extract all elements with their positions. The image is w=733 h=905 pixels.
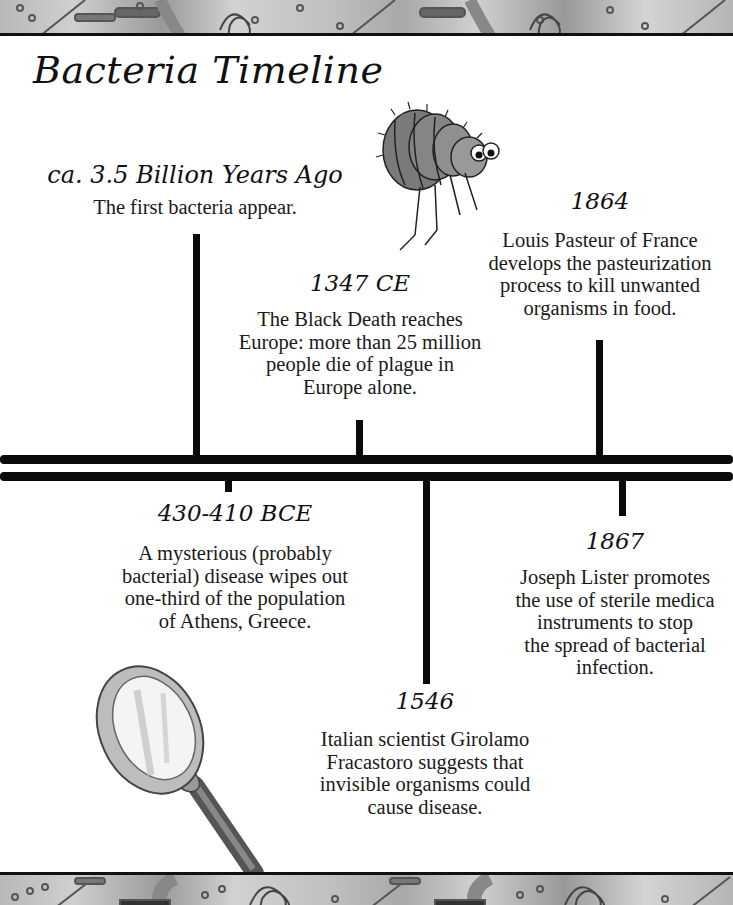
event-description: The Black Death reaches Europe: more tha… (210, 308, 510, 398)
event-date: 1867 (485, 526, 733, 556)
timeline-event-1867: 1867 Joseph Lister promotes the use of s… (485, 526, 733, 679)
timeline-tick-1546 (423, 480, 430, 684)
magnifying-glass-icon (75, 655, 265, 875)
event-description: Joseph Lister promotes the use of steril… (485, 566, 733, 679)
event-date: 430-410 BCE (90, 498, 380, 528)
timeline-event-3-5-billion-years-ago: ca. 3.5 Billion Years Ago The first bact… (20, 160, 370, 219)
magnifying-glass-illustration (75, 655, 265, 875)
timeline-tick-1867 (619, 480, 626, 516)
event-description: Louis Pasteur of France develops the pas… (465, 229, 733, 319)
timeline-tick-3-5-billion (193, 234, 200, 456)
timeline-event-1546: 1546 Italian scientist Girolamo Fracasto… (290, 686, 560, 818)
event-description: Italian scientist Girolamo Fracastoro su… (290, 728, 560, 818)
event-date: 1864 (465, 186, 733, 216)
timeline-tick-1864 (596, 340, 603, 456)
bacteria-pattern-icon (0, 875, 733, 905)
timeline-event-430-410-bce: 430-410 BCE A mysterious (probably bacte… (90, 498, 380, 632)
bacteria-pattern-icon (0, 0, 733, 36)
page-title: Bacteria Timeline (33, 48, 383, 92)
timeline-axis-upper (0, 455, 733, 464)
event-date: 1546 (290, 686, 560, 716)
event-description: The first bacteria appear. (20, 196, 370, 219)
timeline-tick-430-410-bce (225, 480, 232, 492)
event-description: A mysterious (probably bacterial) diseas… (90, 542, 380, 632)
bottom-border-band (0, 872, 733, 905)
event-date: ca. 3.5 Billion Years Ago (20, 160, 370, 190)
timeline-event-1864: 1864 Louis Pasteur of France develops th… (465, 186, 733, 319)
timeline-tick-1347 (356, 420, 363, 456)
top-border-band (0, 0, 733, 36)
